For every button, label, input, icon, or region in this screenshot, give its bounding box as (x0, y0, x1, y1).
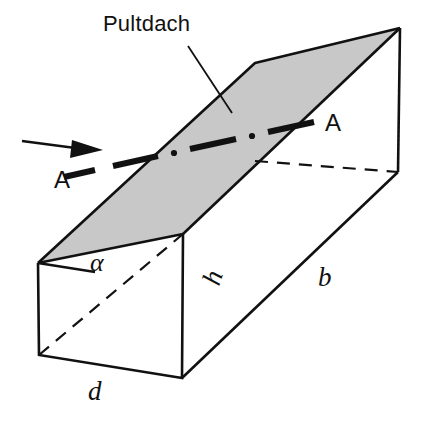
dimension-b-label: b (318, 264, 332, 291)
section-dot-2 (249, 133, 255, 139)
box-right-vertical-edge (398, 28, 400, 172)
angle-reference-leg (38, 263, 95, 272)
section-dot-1 (171, 150, 177, 156)
section-mark-right-label: A (325, 111, 341, 135)
arrow-head (70, 140, 103, 158)
angle-alpha-label: α (90, 250, 104, 276)
pultdach-figure: Pultdach A A α h b d (0, 0, 423, 423)
hidden-edge-top-back (255, 161, 398, 172)
roof-callout-label: Pultdach (103, 13, 190, 35)
section-mark-left-label: A (54, 168, 70, 192)
view-direction-arrow (22, 140, 103, 158)
pultdach-drawing (0, 0, 423, 423)
dimension-d-label: d (88, 378, 102, 405)
